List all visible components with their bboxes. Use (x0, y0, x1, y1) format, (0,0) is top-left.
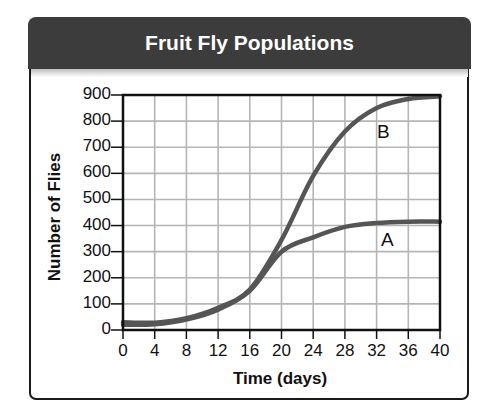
grid-lines (123, 95, 440, 330)
y-tick-label: 200 (61, 268, 111, 286)
x-tick-label: 36 (393, 342, 423, 360)
y-tick-label: 300 (61, 242, 111, 260)
x-tick-label: 24 (298, 342, 328, 360)
x-tick-label: 0 (108, 342, 138, 360)
x-tick-label: 16 (235, 342, 265, 360)
y-tick-label: 400 (61, 216, 111, 234)
y-tick-label: 800 (61, 111, 111, 129)
x-tick-label: 4 (140, 342, 170, 360)
x-tick-label: 8 (171, 342, 201, 360)
x-tick-label: 40 (425, 342, 455, 360)
y-tick-label: 500 (61, 189, 111, 207)
y-tick-label: 900 (61, 85, 111, 103)
y-tick-label: 700 (61, 137, 111, 155)
y-tick-label: 0 (61, 320, 111, 338)
x-tick-label: 28 (330, 342, 360, 360)
axis-ticks (111, 95, 440, 339)
x-tick-label: 32 (362, 342, 392, 360)
curve-label-b: B (377, 121, 390, 143)
x-axis-label: Time (days) (200, 369, 360, 389)
x-tick-label: 20 (267, 342, 297, 360)
y-tick-label: 600 (61, 163, 111, 181)
y-tick-label: 100 (61, 294, 111, 312)
y-axis-label: Number of Flies (45, 153, 65, 281)
x-tick-label: 12 (203, 342, 233, 360)
curve-label-a: A (381, 229, 394, 251)
